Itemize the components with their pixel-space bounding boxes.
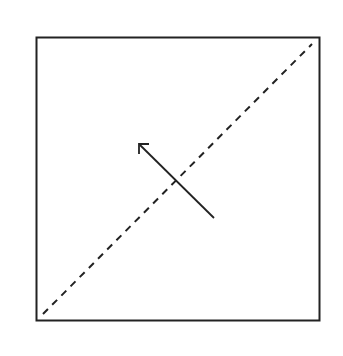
dashed-diagonal (43, 44, 312, 314)
arrow-icon (140, 145, 214, 218)
diagram-canvas (0, 0, 343, 356)
